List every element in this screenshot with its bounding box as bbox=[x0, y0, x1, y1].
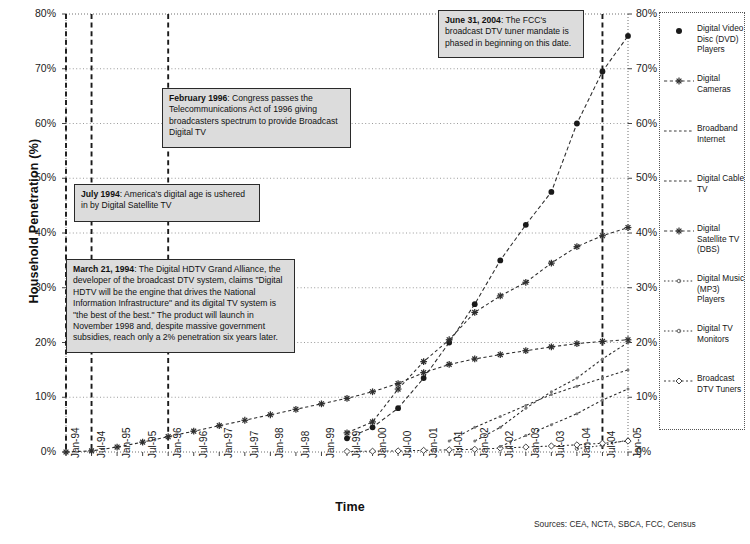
x-axis-tick: Jul-03 bbox=[555, 431, 566, 458]
x-axis-tick: Jul-94 bbox=[96, 431, 107, 458]
x-axis-tick: Jul-95 bbox=[147, 431, 158, 458]
x-axis-tick: Jul-98 bbox=[300, 431, 311, 458]
legend-item[interactable]: Digital Video Disc (DVD) Players bbox=[662, 23, 746, 55]
x-axis-tick: Jan-05 bbox=[632, 427, 643, 458]
legend-item[interactable]: Digital Satellite TV (DBS) bbox=[662, 223, 746, 255]
x-axis-tick: Jan-95 bbox=[121, 427, 132, 458]
annotation-date-june-2004: June 31, 2004 bbox=[445, 15, 501, 25]
x-axis-title: Time bbox=[305, 500, 395, 514]
sources-note: Sources: CEA, NCTA, SBCA, FCC, Census bbox=[534, 519, 696, 529]
y-axis-tick-left: 10% bbox=[16, 390, 56, 402]
annotation-july-1994: July 1994: America's digital age is ushe… bbox=[74, 184, 260, 222]
legend-key-filled-diamond-icon bbox=[662, 25, 696, 37]
legend-item-label: Digital Cable TV bbox=[696, 173, 746, 194]
legend-key-asterisk-icon bbox=[662, 225, 696, 237]
y-axis-tick-left: 50% bbox=[16, 171, 56, 183]
annotation-date-february-1996: February 1996 bbox=[169, 93, 227, 103]
x-axis-tick: Jul-99 bbox=[351, 431, 362, 458]
chart-legend: Digital Video Disc (DVD) PlayersDigital … bbox=[659, 12, 745, 430]
x-axis-tick: Jan-97 bbox=[223, 427, 234, 458]
x-axis-tick: Jul-97 bbox=[249, 431, 260, 458]
y-axis-tick-left: 30% bbox=[16, 281, 56, 293]
y-axis-tick-left: 20% bbox=[16, 336, 56, 348]
legend-key-plain-icon bbox=[662, 175, 696, 187]
legend-item[interactable]: Digital Music (MP3) Players bbox=[662, 273, 746, 305]
legend-item[interactable]: Digital Cameras bbox=[662, 73, 746, 94]
annotation-march-1994: March 21, 1994: The Digital HDTV Grand A… bbox=[66, 259, 295, 353]
legend-item-label: Digital Music (MP3) Players bbox=[696, 273, 746, 305]
x-axis-tick: Jul-01 bbox=[453, 431, 464, 458]
legend-item-label: Broadband Internet bbox=[696, 123, 746, 144]
legend-item[interactable]: Digital TV Monitors bbox=[662, 323, 746, 344]
x-axis-tick: Jan-00 bbox=[377, 427, 388, 458]
legend-item-label: Digital Satellite TV (DBS) bbox=[696, 223, 746, 255]
legend-key-asterisk-icon bbox=[662, 75, 696, 87]
x-axis-tick: Jul-96 bbox=[198, 431, 209, 458]
annotation-february-1996: February 1996: Congress passes the Telec… bbox=[162, 88, 351, 148]
x-axis-tick: Jan-02 bbox=[479, 427, 490, 458]
x-axis-tick: Jul-00 bbox=[402, 431, 413, 458]
legend-item-label: Digital TV Monitors bbox=[696, 323, 746, 344]
legend-item-label: Digital Cameras bbox=[696, 73, 746, 94]
legend-item[interactable]: Digital Cable TV bbox=[662, 173, 746, 194]
chart-container: Household Penetration (%) Time 0%0%10%10… bbox=[0, 0, 750, 544]
x-axis-tick: Jan-96 bbox=[172, 427, 183, 458]
x-axis-tick: Jan-94 bbox=[70, 427, 81, 458]
x-axis-tick: Jan-99 bbox=[325, 427, 336, 458]
x-axis-tick: Jul-04 bbox=[606, 431, 617, 458]
y-axis-tick-left: 0% bbox=[16, 445, 56, 457]
legend-item[interactable]: Broadband Internet bbox=[662, 123, 746, 144]
y-axis-tick-left: 60% bbox=[16, 117, 56, 129]
x-axis-tick: Jul-02 bbox=[504, 431, 515, 458]
legend-key-open-diamond-icon bbox=[662, 375, 696, 387]
annotation-date-march-1994: March 21, 1994 bbox=[73, 264, 134, 274]
y-axis-tick-left: 80% bbox=[16, 7, 56, 19]
y-axis-tick-left: 70% bbox=[16, 62, 56, 74]
legend-key-dotted-icon bbox=[662, 275, 696, 287]
x-axis-tick: Jan-01 bbox=[428, 427, 439, 458]
legend-item-label: Broadcast DTV Tuners bbox=[696, 373, 746, 394]
x-axis-tick: Jan-04 bbox=[581, 427, 592, 458]
annotation-june-2004: June 31, 2004: The FCC's broadcast DTV t… bbox=[438, 10, 584, 58]
annotation-text-march-1994: : The Digital HDTV Grand Alliance, the d… bbox=[73, 264, 282, 342]
x-axis-tick: Jan-03 bbox=[530, 427, 541, 458]
y-axis-tick-left: 40% bbox=[16, 226, 56, 238]
legend-item[interactable]: Broadcast DTV Tuners bbox=[662, 373, 746, 394]
legend-key-plain-icon bbox=[662, 125, 696, 137]
legend-item-label: Digital Video Disc (DVD) Players bbox=[696, 23, 746, 55]
legend-key-dotted-icon bbox=[662, 325, 696, 337]
x-axis-tick: Jan-98 bbox=[274, 427, 285, 458]
annotation-date-july-1994: July 1994 bbox=[81, 189, 120, 199]
